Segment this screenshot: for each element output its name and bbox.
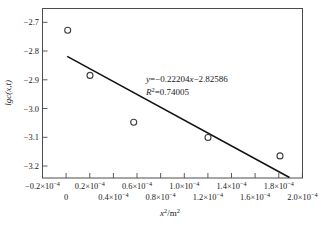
y-tick-label: −3.1 <box>24 133 39 142</box>
y-tick-label: −2.8 <box>24 47 39 56</box>
x-tick-label: 0 <box>64 193 68 202</box>
chart-figure: −2.7 −2.8 −2.9 −3.0 −3.1 −3.2 lgc(x,t) <box>0 0 322 228</box>
y-tick-label: −3.0 <box>24 105 39 114</box>
y-tick-label: −2.9 <box>24 76 39 85</box>
chart-svg: −2.7 −2.8 −2.9 −3.0 −3.1 −3.2 lgc(x,t) <box>0 0 322 228</box>
y-axis-title: lgc(x,t) <box>3 80 13 106</box>
regression-equation-label: y=−0.22204x−2.82586 <box>145 74 228 84</box>
y-tick-label: −3.2 <box>24 162 39 171</box>
y-tick-label: −2.7 <box>24 18 39 27</box>
